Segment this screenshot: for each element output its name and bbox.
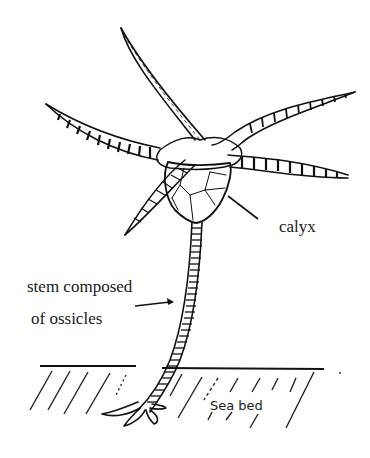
seabed-hatching xyxy=(30,371,314,428)
seabed-label: Sea bed xyxy=(210,398,263,413)
stem-arrow xyxy=(135,302,170,306)
stem-annotation: stem composed of ossicles xyxy=(27,277,174,328)
calyx-annotation: calyx xyxy=(228,196,316,236)
stem xyxy=(138,222,202,412)
holdfast xyxy=(102,402,166,426)
stem-label-line2: of ossicles xyxy=(31,309,102,328)
arm-upper xyxy=(121,28,205,140)
calyx-arrow xyxy=(228,196,258,219)
calyx xyxy=(165,162,231,223)
arm-upper-right xyxy=(212,92,355,150)
stem-arrowhead xyxy=(167,298,174,305)
arm-left xyxy=(46,104,160,160)
stem-ossicles xyxy=(147,228,202,402)
calyx-label: calyx xyxy=(279,217,316,236)
arm-right xyxy=(228,155,348,178)
arm-lower-left xyxy=(125,160,195,235)
crinoid-diagram: Sea bed calyx stem composed of ossicles xyxy=(0,0,370,458)
stem-label-line1: stem composed xyxy=(27,277,133,296)
seabed: Sea bed xyxy=(30,366,341,428)
